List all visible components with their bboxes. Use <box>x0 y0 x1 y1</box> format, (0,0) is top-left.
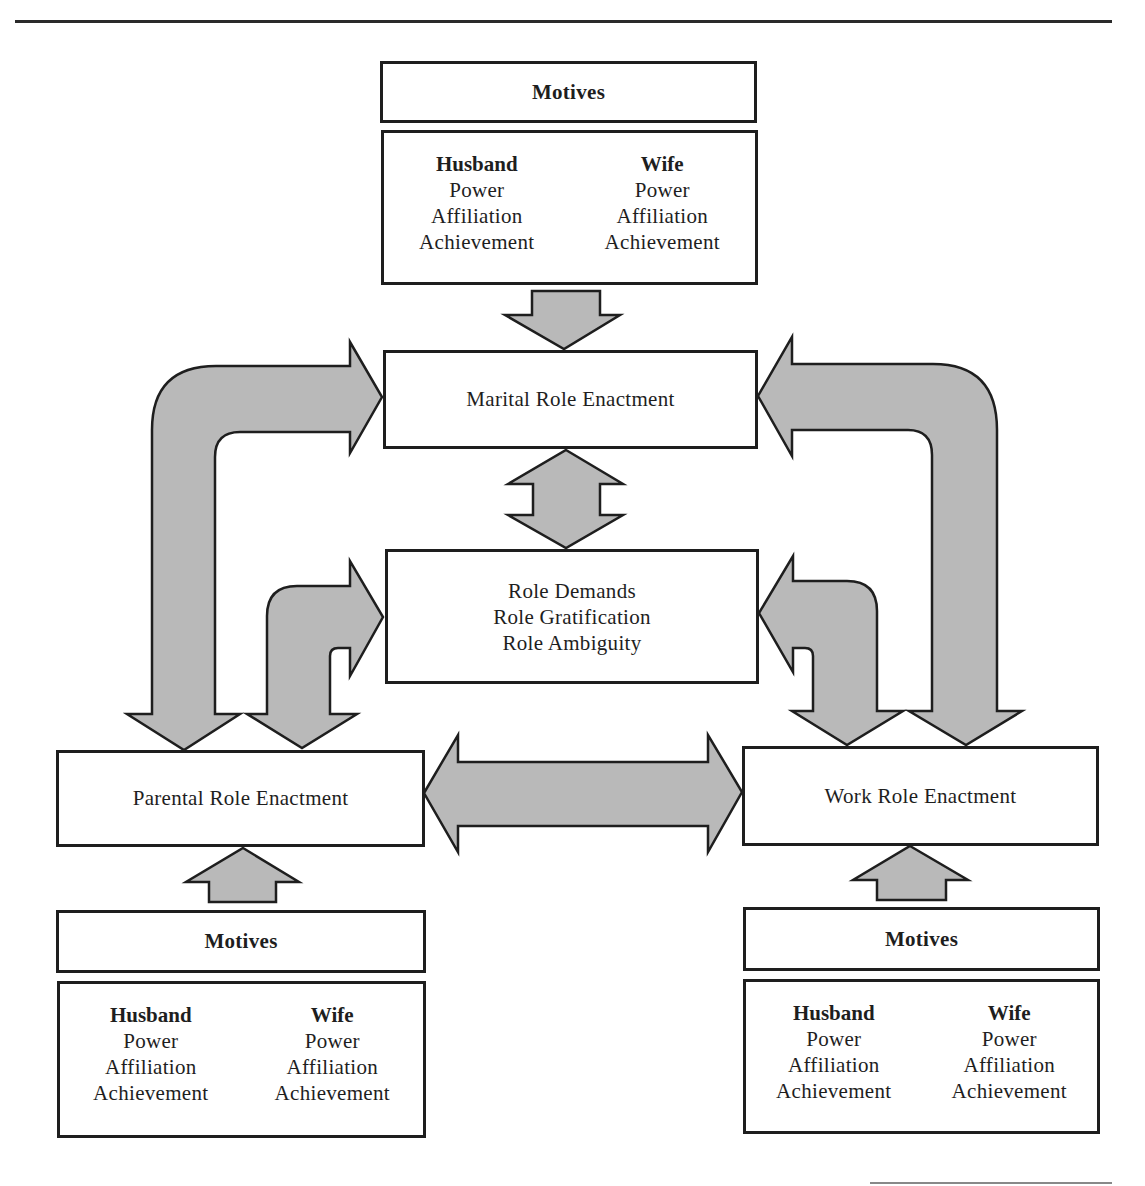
arrow-curved-parental-role <box>247 561 383 748</box>
motive-item: Achievement <box>419 229 534 255</box>
motive-item: Power <box>123 1028 178 1054</box>
role-attributes-box: Role Demands Role Gratification Role Amb… <box>385 549 759 684</box>
motive-item: Affiliation <box>616 203 708 229</box>
wife-title: Wife <box>311 1002 354 1028</box>
left-motives-content: Husband Power Affiliation Achievement Wi… <box>57 981 426 1138</box>
motive-item: Achievement <box>776 1078 891 1104</box>
wife-column: Wife Power Affiliation Achievement <box>605 151 720 255</box>
motive-item: Power <box>305 1028 360 1054</box>
motive-item: Affiliation <box>788 1052 880 1078</box>
right-motives-content: Husband Power Affiliation Achievement Wi… <box>743 979 1100 1134</box>
motive-item: Affiliation <box>963 1052 1055 1078</box>
motives-title: Motives <box>532 80 605 105</box>
arrow-double-vertical-marital-role <box>508 450 623 548</box>
right-motives-header: Motives <box>743 907 1100 971</box>
wife-column: Wife Power Affiliation Achievement <box>275 1002 390 1106</box>
husband-column: Husband Power Affiliation Achievement <box>93 1002 208 1106</box>
marital-role-box: Marital Role Enactment <box>383 350 758 449</box>
husband-title: Husband <box>793 1000 875 1026</box>
arrow-curved-work-role <box>759 556 903 745</box>
arrow-up-motives-to-work <box>853 846 968 900</box>
motive-item: Power <box>635 177 690 203</box>
motives-title: Motives <box>204 929 277 954</box>
motive-item: Power <box>449 177 504 203</box>
arrow-down-motives-to-marital <box>505 291 620 349</box>
arrow-up-motives-to-parental <box>186 848 299 902</box>
marital-role-label: Marital Role Enactment <box>466 387 674 412</box>
wife-title: Wife <box>641 151 684 177</box>
role-ambiguity-label: Role Ambiguity <box>503 630 642 656</box>
husband-title: Husband <box>436 151 518 177</box>
arrow-curved-work-marital <box>758 337 1022 745</box>
husband-column: Husband Power Affiliation Achievement <box>776 1000 891 1104</box>
motives-title: Motives <box>885 927 958 952</box>
role-gratification-label: Role Gratification <box>493 604 651 630</box>
motive-item: Affiliation <box>105 1054 197 1080</box>
left-motives-header: Motives <box>56 910 426 973</box>
work-role-label: Work Role Enactment <box>825 784 1017 809</box>
top-motives-header: Motives <box>380 61 757 123</box>
husband-column: Husband Power Affiliation Achievement <box>419 151 534 255</box>
wife-column: Wife Power Affiliation Achievement <box>952 1000 1067 1104</box>
arrow-double-horizontal-parental-work <box>424 735 742 852</box>
motive-item: Power <box>806 1026 861 1052</box>
motive-item: Achievement <box>605 229 720 255</box>
motive-item: Power <box>982 1026 1037 1052</box>
husband-title: Husband <box>110 1002 192 1028</box>
parental-role-box: Parental Role Enactment <box>56 750 425 847</box>
motive-item: Affiliation <box>431 203 523 229</box>
top-motives-content: Husband Power Affiliation Achievement Wi… <box>381 130 758 285</box>
motive-item: Achievement <box>93 1080 208 1106</box>
motive-item: Achievement <box>275 1080 390 1106</box>
motive-item: Affiliation <box>286 1054 378 1080</box>
arrow-curved-parental-marital <box>127 342 382 750</box>
role-demands-label: Role Demands <box>508 578 636 604</box>
work-role-box: Work Role Enactment <box>742 746 1099 846</box>
parental-role-label: Parental Role Enactment <box>133 786 349 811</box>
wife-title: Wife <box>988 1000 1031 1026</box>
motive-item: Achievement <box>952 1078 1067 1104</box>
